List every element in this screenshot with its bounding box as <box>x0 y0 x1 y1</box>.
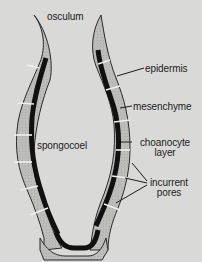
label-choanocyte-line2: layer <box>133 148 197 158</box>
label-choanocyte-layer: choanocyte layer <box>133 138 197 158</box>
label-incurrent-line2: pores <box>146 188 192 198</box>
left-body-wall <box>16 15 62 250</box>
sponge-body-drawing <box>0 0 202 262</box>
label-osculum: osculum <box>47 12 84 22</box>
label-mesenchyme: mesenchyme <box>133 102 191 112</box>
sponge-diagram: osculum epidermis mesenchyme choanocyte … <box>0 0 202 262</box>
label-epidermis: epidermis <box>145 64 187 74</box>
label-spongocoel: spongocoel <box>37 141 87 151</box>
label-incurrent-pores: incurrent pores <box>146 178 192 198</box>
